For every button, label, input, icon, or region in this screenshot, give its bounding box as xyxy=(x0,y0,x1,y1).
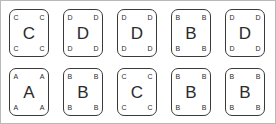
card-corner-bottom-left: B xyxy=(68,104,73,111)
card-center-letter: B xyxy=(226,84,264,101)
card-corner-bottom-left: D xyxy=(230,45,235,52)
card-corner-bottom-right: D xyxy=(93,45,98,52)
card-center-letter: C xyxy=(118,84,156,101)
card-corner-bottom-left: C xyxy=(14,45,19,52)
card-corner-bottom-right: C xyxy=(147,104,152,111)
letter-card[interactable]: A A A A A xyxy=(9,68,49,116)
card-corner-bottom-right: A xyxy=(40,104,45,111)
card-corner-bottom-right: D xyxy=(147,45,152,52)
card-center-letter: B xyxy=(64,84,102,101)
card-corner-top-right: A xyxy=(40,73,45,80)
letter-card[interactable]: B B B B B xyxy=(63,68,103,116)
card-corner-bottom-left: C xyxy=(122,104,127,111)
card-corner-bottom-right: C xyxy=(39,45,44,52)
card-center-letter: D xyxy=(118,25,156,42)
card-corner-bottom-left: B xyxy=(176,104,181,111)
card-corner-top-left: A xyxy=(14,73,19,80)
card-corner-top-left: D xyxy=(122,14,127,21)
card-corner-bottom-right: B xyxy=(202,104,207,111)
letter-card[interactable]: D D D D D xyxy=(117,9,157,57)
card-corner-top-left: D xyxy=(230,14,235,21)
card-corner-top-right: C xyxy=(39,14,44,21)
card-corner-top-right: C xyxy=(147,73,152,80)
letter-card[interactable]: C C C C C xyxy=(9,9,49,57)
card-corner-top-left: D xyxy=(68,14,73,21)
card-center-letter: C xyxy=(10,25,48,42)
card-corner-bottom-left: D xyxy=(68,45,73,52)
letter-card[interactable]: B B B B B xyxy=(171,9,211,57)
card-center-letter: B xyxy=(172,84,210,101)
card-corner-top-left: B xyxy=(176,73,181,80)
letter-card[interactable]: C C C C C xyxy=(117,68,157,116)
card-corner-bottom-right: D xyxy=(255,45,260,52)
letter-card[interactable]: D D D D D xyxy=(63,9,103,57)
card-center-letter: A xyxy=(10,84,48,101)
card-center-letter: D xyxy=(64,25,102,42)
card-corner-top-left: B xyxy=(68,73,73,80)
card-corner-top-left: C xyxy=(14,14,19,21)
card-corner-top-right: D xyxy=(255,14,260,21)
letter-card[interactable]: D D D D D xyxy=(225,9,265,57)
card-corner-top-right: B xyxy=(202,73,207,80)
card-grid-canvas: C C C C C D D D D D D D D D D B B B B B xyxy=(0,0,276,124)
card-corner-top-right: B xyxy=(94,73,99,80)
card-grid: C C C C C D D D D D D D D D D B B B B B xyxy=(9,9,265,116)
card-corner-bottom-left: D xyxy=(122,45,127,52)
card-corner-bottom-left: B xyxy=(176,45,181,52)
card-corner-bottom-right: B xyxy=(202,45,207,52)
card-corner-top-right: B xyxy=(256,73,261,80)
card-corner-bottom-left: B xyxy=(230,104,235,111)
card-corner-top-right: D xyxy=(93,14,98,21)
card-corner-bottom-right: B xyxy=(94,104,99,111)
card-center-letter: D xyxy=(226,25,264,42)
card-corner-bottom-right: B xyxy=(256,104,261,111)
card-corner-bottom-left: A xyxy=(14,104,19,111)
letter-card[interactable]: B B B B B xyxy=(225,68,265,116)
card-corner-top-right: D xyxy=(147,14,152,21)
card-corner-top-right: B xyxy=(202,14,207,21)
letter-card[interactable]: B B B B B xyxy=(171,68,211,116)
card-corner-top-left: C xyxy=(122,73,127,80)
card-center-letter: B xyxy=(172,25,210,42)
card-corner-top-left: B xyxy=(176,14,181,21)
card-corner-top-left: B xyxy=(230,73,235,80)
